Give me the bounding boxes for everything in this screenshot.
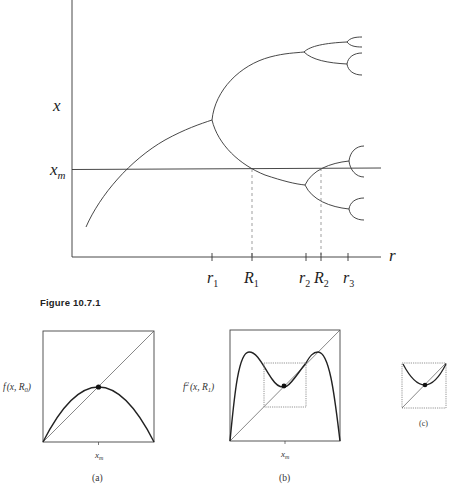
- panel-b-f2-curve: [230, 352, 340, 441]
- xm-label: xm: [49, 160, 66, 181]
- panel-c-label: (c): [419, 419, 428, 428]
- panel-b: xm f2(x, R1) (b): [183, 330, 340, 484]
- panel-b-fixed-point: [282, 384, 287, 389]
- period-2-upper-branch: [212, 52, 304, 120]
- period-4-branch: [305, 185, 349, 209]
- period-8-branch: [347, 37, 362, 42]
- panel-a-fixed-point: [96, 384, 101, 389]
- period-4-branch: [304, 52, 347, 64]
- panel-c-fixed-point: [423, 383, 428, 388]
- panel-a-parabola: [43, 387, 154, 442]
- panel-a-ylabel: f(x, R0): [3, 382, 31, 393]
- period-8-branch: [349, 209, 364, 220]
- panel-a-xlabel: xm: [94, 450, 104, 461]
- y-axis-label: x: [52, 96, 61, 115]
- panel-a: xm f(x, R0) (a): [3, 331, 154, 484]
- panel-b-label: (b): [279, 473, 290, 484]
- panel-c-parabola: [403, 364, 446, 385]
- panel-b-xlabel: xm: [280, 449, 290, 460]
- period-8-branch: [347, 53, 362, 64]
- period-8-branch: [349, 146, 364, 161]
- figure-caption: Figure 10.7.1: [40, 297, 101, 308]
- period-1-branch: [86, 120, 212, 227]
- period-8-branch: [349, 198, 364, 209]
- period-8-branch: [347, 64, 362, 75]
- period-8-branch: [347, 42, 362, 47]
- tick-label-r2: r2: [299, 269, 310, 289]
- x-axis-label: r: [389, 246, 396, 265]
- bifurcation-diagram: [72, 0, 381, 261]
- panel-a-label: (a): [92, 473, 103, 484]
- tick-labels: r1 R1 r2 R2 r3: [207, 269, 354, 289]
- period-4-branch: [305, 161, 349, 185]
- tick-label-R2: R2: [313, 269, 329, 289]
- tick-label-R1: R1: [243, 269, 259, 289]
- tick-label-r3: r3: [343, 269, 354, 289]
- figure-canvas: x r xm r1 R1 r2 R2 r3 xm f(x, R0) (a) xm…: [0, 0, 454, 499]
- tick-label-r1: r1: [207, 269, 218, 289]
- panel-b-ylabel: f2(x, R1): [183, 380, 214, 393]
- period-2-lower-branch: [212, 120, 305, 185]
- period-8-branch: [349, 161, 364, 177]
- period-4-branch: [304, 42, 347, 52]
- xm-line: [72, 168, 381, 170]
- xm-sub: m: [58, 169, 66, 181]
- panel-c: (c): [402, 363, 446, 428]
